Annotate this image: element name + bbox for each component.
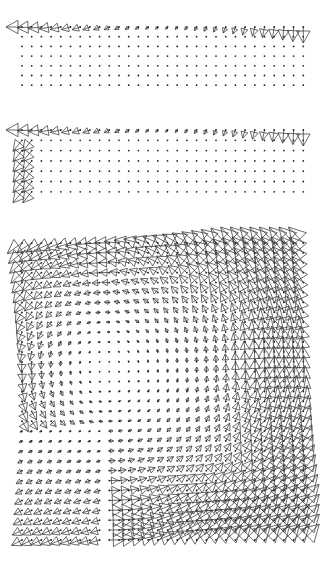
vector-glyph	[129, 486, 139, 494]
grid-point	[264, 150, 266, 152]
vector-glyph	[79, 259, 90, 268]
grid-point	[108, 331, 110, 333]
grid-point	[244, 150, 246, 152]
grid-point	[118, 509, 120, 511]
vector-glyph	[214, 424, 220, 431]
grid-point	[89, 170, 91, 172]
grid-point	[235, 539, 237, 541]
grid-point	[31, 65, 33, 67]
grid-point	[215, 129, 217, 131]
grid-point	[205, 311, 207, 313]
grid-point	[186, 430, 188, 432]
grid-point	[215, 191, 217, 193]
grid-point	[41, 341, 43, 343]
grid-point	[196, 139, 198, 141]
grid-point	[167, 410, 169, 412]
grid-point	[147, 84, 149, 86]
grid-point	[99, 391, 101, 393]
grid-point	[41, 331, 43, 333]
grid-point	[41, 381, 43, 383]
vector-glyph	[192, 295, 199, 303]
grid-point	[31, 361, 33, 363]
grid-point	[118, 500, 120, 502]
grid-point	[70, 361, 72, 363]
grid-point	[244, 410, 246, 412]
grid-point	[79, 129, 81, 131]
grid-point	[31, 84, 33, 86]
grid-point	[138, 519, 140, 521]
grid-point	[196, 84, 198, 86]
grid-point	[79, 539, 81, 541]
grid-point	[167, 430, 169, 432]
vector-glyph	[160, 277, 168, 284]
vector-glyph	[28, 125, 41, 136]
grid-point	[128, 430, 130, 432]
vector-glyph	[213, 335, 219, 342]
grid-point	[215, 311, 217, 313]
grid-point	[31, 331, 33, 333]
grid-point	[108, 46, 110, 48]
vector-glyph	[23, 170, 34, 182]
grid-point	[99, 191, 101, 193]
vector-glyph	[18, 382, 27, 393]
vector-glyph	[63, 280, 71, 286]
grid-point	[225, 55, 227, 57]
grid-point	[79, 509, 81, 511]
vector-glyph	[232, 130, 238, 137]
grid-point	[157, 292, 159, 294]
grid-point	[235, 450, 237, 452]
grid-point	[235, 181, 237, 183]
vector-glyph	[74, 290, 80, 295]
vector-glyph	[231, 343, 239, 352]
grid-point	[273, 26, 275, 28]
grid-point	[293, 55, 295, 57]
grid-point	[167, 529, 169, 531]
grid-point	[108, 509, 110, 511]
grid-point	[79, 470, 81, 472]
grid-point	[157, 529, 159, 531]
grid-point	[167, 450, 169, 452]
grid-point	[283, 150, 285, 152]
grid-point	[215, 150, 217, 152]
grid-point	[167, 480, 169, 482]
grid-point	[225, 129, 227, 131]
grid-point	[186, 181, 188, 183]
grid-point	[79, 341, 81, 343]
vector-glyph	[17, 362, 26, 373]
grid-point	[157, 450, 159, 452]
grid-point	[167, 539, 169, 541]
grid-point	[41, 84, 43, 86]
grid-point	[186, 321, 188, 323]
grid-point	[50, 361, 52, 363]
grid-point	[283, 26, 285, 28]
vector-glyph	[99, 258, 110, 267]
vector-glyph	[222, 314, 229, 322]
grid-point	[108, 282, 110, 284]
grid-point	[60, 311, 62, 313]
vector-glyph	[46, 479, 51, 483]
grid-point	[176, 430, 178, 432]
grid-point	[196, 391, 198, 393]
grid-point	[41, 500, 43, 502]
grid-point	[41, 440, 43, 442]
grid-point	[108, 450, 110, 452]
grid-point	[283, 36, 285, 38]
grid-point	[176, 420, 178, 422]
grid-point	[302, 181, 304, 183]
grid-point	[215, 401, 217, 403]
grid-point	[60, 36, 62, 38]
grid-point	[108, 500, 110, 502]
vector-glyph	[41, 537, 51, 546]
grid-point	[99, 480, 101, 482]
grid-point	[235, 430, 237, 432]
vector-glyph	[222, 334, 229, 342]
grid-point	[225, 430, 227, 432]
grid-point	[176, 361, 178, 363]
grid-point	[138, 46, 140, 48]
grid-point	[264, 26, 266, 28]
grid-point	[89, 36, 91, 38]
vector-glyph	[158, 485, 168, 493]
grid-point	[128, 292, 130, 294]
vector-glyph	[43, 518, 51, 525]
grid-point	[21, 440, 23, 442]
